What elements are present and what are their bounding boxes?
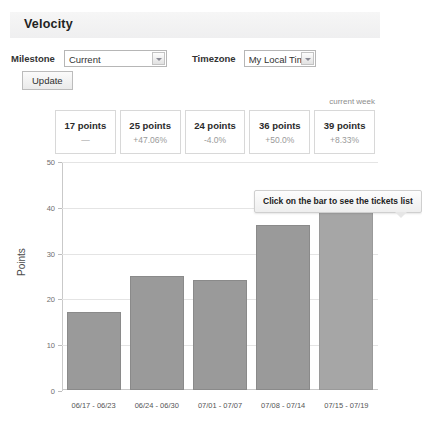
chart-bar[interactable] [319, 211, 373, 390]
stat-box[interactable]: 25 points +47.06% [120, 110, 181, 154]
filter-toolbar: Milestone Current Timezone My Local Time… [11, 48, 377, 70]
stat-delta: +50.0% [250, 135, 309, 145]
current-week-label: current week [329, 97, 375, 106]
y-axis-title: Points [16, 248, 27, 276]
chart-tooltip-text: Click on the bar to see the tickets list [263, 196, 413, 206]
stat-points: 25 points [121, 120, 180, 131]
chart-bar[interactable] [256, 225, 310, 390]
stat-box[interactable]: 39 points +8.33% [314, 110, 375, 154]
chart-plot-area: 01020304050 06/17 - 06/2306/24 - 06/3007… [62, 162, 378, 390]
update-button[interactable]: Update [22, 71, 73, 90]
milestone-select[interactable]: Current [64, 50, 167, 67]
x-tick-label: 07/01 - 07/07 [188, 401, 251, 410]
milestone-label: Milestone [11, 48, 55, 70]
chevron-down-icon [301, 52, 314, 65]
y-tick-label: 30 [47, 249, 55, 258]
page-title: Velocity [24, 17, 73, 31]
stat-points: 36 points [250, 120, 309, 131]
chart-bar[interactable] [130, 276, 184, 391]
chart-tooltip: Click on the bar to see the tickets list [254, 190, 422, 213]
chevron-down-icon [152, 52, 165, 65]
stat-points: 24 points [186, 120, 245, 131]
stat-box[interactable]: 36 points +50.0% [249, 110, 310, 154]
x-tick-label: 06/17 - 06/23 [62, 401, 125, 410]
stat-points: 39 points [315, 120, 374, 131]
timezone-label: Timezone [192, 48, 236, 70]
x-tick-label: 06/24 - 06/30 [125, 401, 188, 410]
chart-bar[interactable] [67, 312, 121, 390]
stat-box[interactable]: 24 points -4.0% [185, 110, 246, 154]
velocity-bar-chart: Points 01020304050 06/17 - 06/2306/24 - … [0, 158, 387, 431]
milestone-select-value: Current [69, 54, 101, 65]
x-tick-label: 07/08 - 07/14 [252, 401, 315, 410]
y-tick-label: 10 [47, 341, 55, 350]
stat-delta: +47.06% [121, 135, 180, 145]
summary-stat-boxes: 17 points — 25 points +47.06% 24 points … [55, 110, 375, 154]
stat-points: 17 points [56, 120, 115, 131]
stat-delta: — [56, 135, 115, 145]
chart-bar[interactable] [193, 280, 247, 390]
top-cutoff-strip: · · · · · · · · · · [0, 0, 387, 11]
stat-delta: -4.0% [186, 135, 245, 145]
x-tick-label: 07/15 - 07/19 [315, 401, 378, 410]
y-tick-label: 0 [51, 387, 55, 396]
stat-delta: +8.33% [315, 135, 374, 145]
y-tick-mark [58, 391, 62, 392]
stat-box[interactable]: 17 points — [55, 110, 116, 154]
y-tick-label: 20 [47, 295, 55, 304]
tooltip-arrow-icon [395, 212, 407, 218]
y-tick-label: 40 [47, 203, 55, 212]
y-tick-label: 50 [47, 158, 55, 167]
page-header: Velocity [10, 12, 380, 38]
top-cutoff-ghost-text: · · · · · · · · · · [28, 0, 80, 4]
timezone-select[interactable]: My Local Time [244, 50, 316, 67]
